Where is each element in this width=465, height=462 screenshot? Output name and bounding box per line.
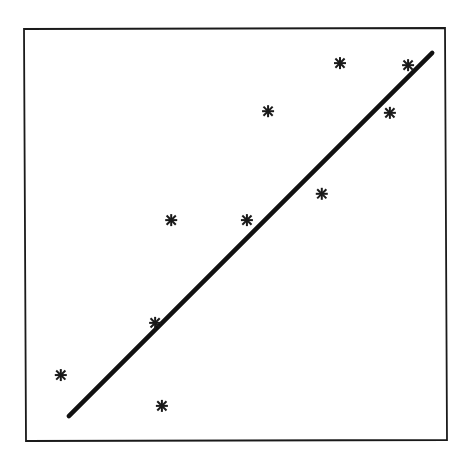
asterisk-marker-icon (384, 107, 396, 119)
data-points-layer (55, 57, 414, 412)
asterisk-marker-icon (165, 214, 177, 226)
asterisk-marker-icon (149, 317, 161, 329)
plot-frame (24, 28, 447, 441)
regression-line (69, 53, 432, 416)
asterisk-marker-icon (241, 214, 253, 226)
asterisk-marker-icon (262, 105, 274, 117)
asterisk-marker-icon (402, 59, 414, 71)
asterisk-marker-icon (55, 369, 67, 381)
asterisk-marker-icon (334, 57, 346, 69)
asterisk-marker-icon (156, 400, 168, 412)
scatter-chart (0, 0, 465, 462)
asterisk-marker-icon (316, 188, 328, 200)
regression-line-layer (69, 53, 432, 416)
